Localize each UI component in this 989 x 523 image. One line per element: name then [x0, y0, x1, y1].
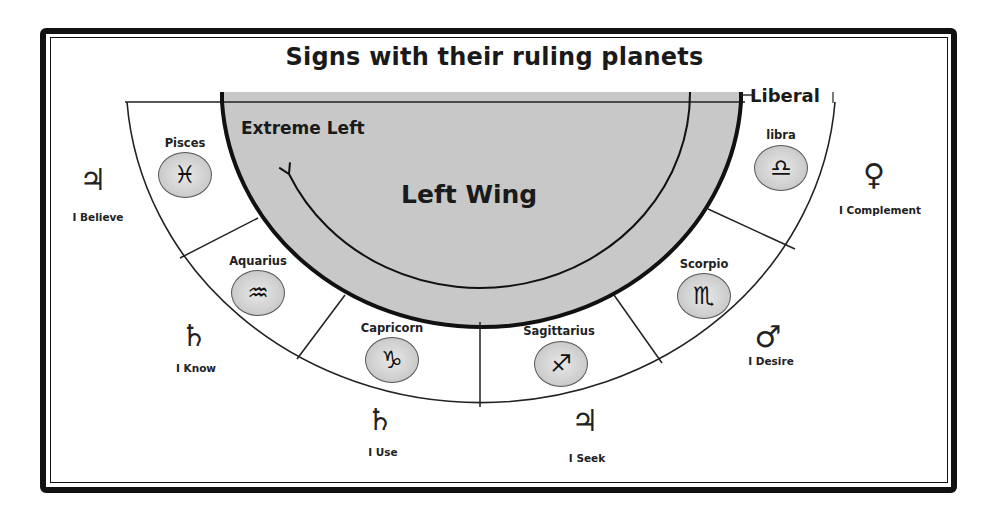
sign-name-aquarius: Aquarius	[229, 254, 287, 268]
planet-caption-scorpio: I Desire	[748, 355, 794, 367]
scorpio-icon: ♏	[677, 273, 731, 319]
divider-pisces-aquarius	[180, 218, 258, 258]
sign-name-libra: libra	[766, 128, 796, 142]
saturn-icon: ♄	[181, 321, 208, 351]
sign-name-sagittarius: Sagittarius	[523, 324, 595, 338]
planet-caption-aquarius: I Know	[176, 362, 216, 374]
jupiter-icon: ♃	[572, 406, 599, 436]
planet-caption-libra: I Complement	[839, 204, 921, 216]
planet-caption-pisces: I Believe	[73, 211, 124, 223]
extreme-left-label: Extreme Left	[241, 118, 365, 138]
sign-name-scorpio: Scorpio	[680, 257, 729, 271]
pisces-icon: ♓	[158, 152, 212, 198]
aquarius-icon: ♒	[231, 270, 285, 316]
libra-icon: ♎	[754, 145, 808, 191]
sign-name-capricorn: Capricorn	[361, 321, 424, 335]
diagram-title: Signs with their ruling planets	[0, 43, 989, 71]
zodiac-half-wheel	[0, 0, 989, 523]
planet-caption-capricorn: I Use	[368, 446, 397, 458]
divider-scorpio-libra	[708, 209, 795, 249]
liberal-label: Liberal	[750, 85, 820, 106]
venus-icon: ♀	[863, 160, 885, 190]
mars-icon: ♂	[755, 322, 782, 352]
divider-aquarius-capricorn	[297, 295, 345, 359]
left-wing-label: Left Wing	[401, 180, 537, 209]
sagittarius-icon: ♐	[534, 341, 588, 387]
jupiter-icon: ♃	[80, 165, 107, 195]
capricorn-icon: ♑	[365, 337, 419, 383]
planet-caption-sagittarius: I Seek	[569, 452, 605, 464]
saturn-icon: ♄	[367, 405, 394, 435]
sign-name-pisces: Pisces	[165, 136, 206, 150]
divider-sagittarius-scorpio	[614, 295, 662, 363]
